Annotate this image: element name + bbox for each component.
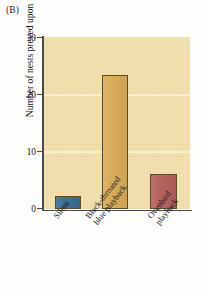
y-tick-label-30: 30 <box>0 33 36 43</box>
figure-panel-b: (B) Number of nests preyed upon 30 20 10… <box>0 0 202 296</box>
y-axis-title: Number of nests preyed upon <box>24 0 35 136</box>
panel-label: (B) <box>6 5 19 15</box>
y-tick-label-10: 10 <box>0 147 36 157</box>
y-axis-line <box>42 36 44 211</box>
y-tick-label-0: 0 <box>0 204 36 214</box>
y-tick-label-20: 20 <box>0 90 36 100</box>
